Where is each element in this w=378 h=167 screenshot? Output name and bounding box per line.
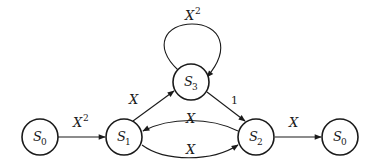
- state-diagram: X 2 X X 2 1 X X X S 0 S 1 S 3 S 2 S: [0, 0, 378, 167]
- svg-text:2: 2: [195, 6, 201, 16]
- svg-text:X: X: [185, 111, 196, 126]
- svg-text:2: 2: [83, 113, 89, 123]
- svg-text:X: X: [128, 92, 139, 107]
- svg-text:3: 3: [192, 82, 198, 92]
- edge-label-s3-loop: X 2: [184, 6, 201, 23]
- node-s0-left: S 0: [22, 119, 58, 155]
- edge-label-s1-s2: X: [185, 142, 196, 157]
- edge-label-s0-s1: X 2: [72, 113, 89, 130]
- svg-text:0: 0: [341, 137, 347, 147]
- edge-s1-to-s3: [133, 91, 174, 121]
- edge-label-s2-s0: X: [288, 115, 299, 130]
- svg-text:X: X: [185, 142, 196, 157]
- svg-text:0: 0: [41, 137, 47, 147]
- edge-label-s2-s1: X: [185, 111, 196, 126]
- node-s3: S 3: [173, 64, 209, 100]
- svg-text:X: X: [72, 115, 83, 130]
- node-s0-right: S 0: [322, 119, 358, 155]
- node-s1: S 1: [106, 119, 142, 155]
- node-s2: S 2: [238, 119, 274, 155]
- svg-text:1: 1: [231, 94, 238, 107]
- svg-text:X: X: [288, 115, 299, 130]
- svg-text:1: 1: [125, 137, 131, 147]
- edge-label-s3-s2: 1: [231, 94, 238, 107]
- edge-label-s1-s3: X: [128, 92, 139, 107]
- edge-s3-to-s2: [207, 92, 245, 121]
- svg-text:X: X: [184, 8, 195, 23]
- svg-text:2: 2: [257, 137, 263, 147]
